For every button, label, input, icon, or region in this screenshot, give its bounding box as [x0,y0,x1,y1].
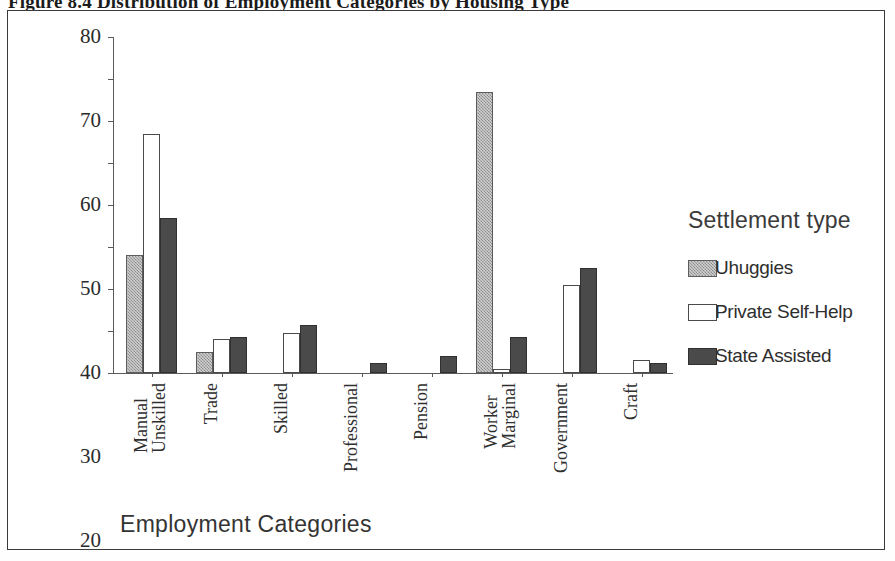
legend-item-label: State Assisted [715,345,831,367]
category-label-line: Skilled [272,383,291,434]
legend-swatch [688,348,717,365]
bar [510,337,527,373]
legend-swatch [688,260,717,277]
legend-item-label: Private Self-Help [715,301,852,323]
plot-area: 01020304050607080 [113,37,673,373]
category-label-line: Worker [482,383,501,449]
category-label-line: Craft [622,383,641,420]
y-axis-tick: 40 [108,205,113,206]
bar [126,255,143,373]
bar [580,268,597,373]
bar [440,356,457,373]
x-axis-category-label: Professional [342,383,361,472]
x-axis-tick [362,373,363,377]
bar [633,360,650,373]
category-label-line: Pension [412,383,431,440]
x-axis-tick [152,373,153,377]
x-axis-category-label: Pension [412,383,431,440]
bar [143,134,160,373]
y-axis-tick: 70 [108,79,113,80]
x-axis-tick [642,373,643,377]
x-axis-title: Employment Categories [120,511,372,538]
x-axis-tick [432,373,433,377]
figure-page: Figure 8.4 Distribution of Employment Ca… [0,0,895,561]
bar [370,363,387,374]
legend-items: UhuggiesPrivate Self-HelpState Assisted [688,251,888,373]
x-axis-category-label: Craft [622,383,641,420]
y-axis-tick: 80 [108,37,113,38]
bar [230,337,247,373]
x-axis-tick [502,373,503,377]
x-axis-category-label: Government [552,383,571,473]
bar [476,92,493,373]
legend-item: Uhuggies [688,251,888,285]
y-axis-tick-label: 30 [80,444,101,469]
bar [300,325,317,373]
category-label-line: Trade [202,383,221,424]
legend-title: Settlement type [688,207,888,234]
category-label-line: Government [552,383,571,473]
x-axis-line [113,373,673,374]
y-axis-tick: 60 [108,121,113,122]
x-axis-tick [572,373,573,377]
y-axis-tick-label: 50 [80,276,101,301]
y-axis-tick: 0 [108,373,113,374]
bar [283,333,300,373]
category-label-line: Manual [132,383,151,453]
legend-item: State Assisted [688,339,888,373]
y-axis-tick-label: 60 [80,192,101,217]
x-axis-category-label: WorkerMarginal [482,383,520,449]
legend-item-label: Uhuggies [715,257,793,279]
y-axis-tick-label: 40 [80,360,101,385]
legend-item: Private Self-Help [688,295,888,329]
bar [213,339,230,373]
y-axis-tick: 30 [108,247,113,248]
legend-swatch [688,304,717,321]
x-axis-category-label: Skilled [272,383,291,434]
y-axis-line [113,37,114,373]
y-axis-tick-label: 80 [80,24,101,49]
y-axis-tick: 20 [108,289,113,290]
figure-frame: 01020304050607080 ManualUnskilledTradeSk… [7,10,885,550]
y-axis-tick-label: 70 [80,108,101,133]
bar [563,285,580,373]
y-axis-tick-label: 20 [80,528,101,553]
x-axis-tick [292,373,293,377]
y-axis-tick: 10 [108,331,113,332]
x-axis-category-label: ManualUnskilled [132,383,170,453]
x-axis-category-label: Trade [202,383,221,424]
bar [196,352,213,373]
bar [650,363,667,374]
category-label-line: Professional [342,383,361,472]
y-axis-tick: 50 [108,163,113,164]
x-axis-tick [222,373,223,377]
bar [160,218,177,373]
legend: Settlement type UhuggiesPrivate Self-Hel… [688,207,888,383]
category-label-line: Unskilled [150,383,169,453]
category-label-line: Marginal [500,383,519,449]
